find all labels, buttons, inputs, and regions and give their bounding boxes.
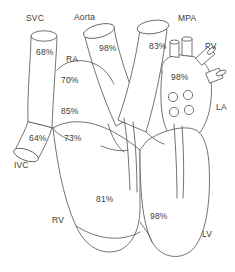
saturation-value-mpa: 83%: [149, 42, 166, 51]
la-vein-ostium-4: [184, 105, 193, 114]
la-vein-ostium-2: [183, 90, 192, 99]
pulmonary-vein-2-opening: [182, 37, 192, 41]
saturation-value-svc: 68%: [36, 48, 53, 57]
structure-label-mpa: MPA: [178, 14, 196, 23]
pulmonary-vein-1-opening: [170, 40, 179, 44]
svc-opening-ellipse: [31, 31, 57, 41]
saturation-value-lv: 98%: [150, 212, 167, 221]
la-vein-ostium-3: [169, 107, 178, 116]
saturation-value-ra-high: 70%: [61, 76, 78, 85]
saturation-value-ivc: 64%: [29, 134, 46, 143]
structure-label-ivc: IVC: [14, 161, 29, 170]
structure-label-rv: RV: [52, 216, 64, 225]
saturation-value-rv: 81%: [96, 195, 113, 204]
structure-label-aorta: Aorta: [74, 13, 95, 22]
cardiac-saturation-diagram: SVC Aorta MPA PV LA RA IVC RV LV 68% 98%…: [0, 0, 235, 272]
left-ventricle-body: [140, 128, 209, 257]
saturation-value-ra-low: 73%: [64, 134, 81, 143]
structure-label-lv: LV: [202, 230, 212, 239]
structure-label-ra: RA: [66, 55, 78, 64]
structure-label-la: LA: [216, 103, 227, 112]
la-vein-ostium-1: [168, 92, 177, 101]
saturation-value-la: 98%: [171, 73, 188, 82]
saturation-value-aorta: 98%: [99, 44, 116, 53]
pulmonary-vein-2: [182, 39, 192, 56]
saturation-value-ra-mid: 85%: [61, 107, 78, 116]
structure-label-pv: PV: [205, 42, 217, 51]
structure-label-svc: SVC: [26, 14, 44, 23]
